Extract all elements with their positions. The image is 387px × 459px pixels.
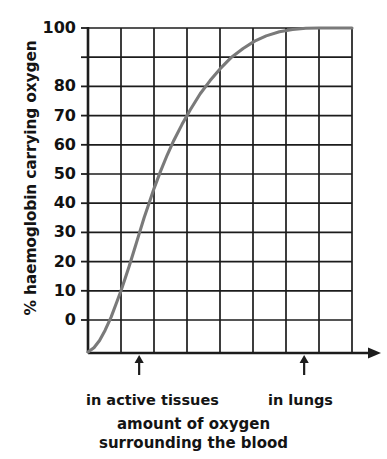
in-lungs-label: in lungs bbox=[268, 392, 333, 409]
x-axis-arrowhead bbox=[368, 348, 381, 359]
chart-figure: % haemoglobin carrying oxygen 1008070605… bbox=[0, 0, 387, 459]
in-active-tissues-label: in active tissues bbox=[86, 392, 219, 409]
grid-lines bbox=[88, 28, 352, 353]
in-lungs-marker-arrowhead bbox=[300, 355, 309, 363]
x-axis-title-line1: amount of oxygen bbox=[0, 415, 387, 434]
axis-lines bbox=[88, 27, 381, 359]
x-axis-title: amount of oxygen surrounding the blood bbox=[0, 415, 387, 453]
axis-markers bbox=[135, 355, 309, 375]
plot-area bbox=[0, 0, 387, 459]
in-active-tissues-marker-arrowhead bbox=[135, 355, 144, 363]
x-axis-title-line2: surrounding the blood bbox=[0, 434, 387, 453]
